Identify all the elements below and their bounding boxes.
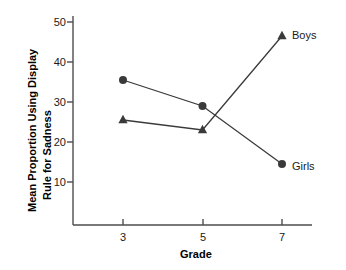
data-point-girls-grade-7: [278, 160, 286, 168]
plot-svg: [0, 0, 346, 270]
chart-container: Mean Proportion Using Display Rule for S…: [0, 0, 346, 270]
series-markers-boys: [118, 31, 286, 134]
data-point-girls-grade-3: [119, 76, 127, 84]
series-line-girls: [123, 80, 282, 164]
data-point-boys-grade-7: [277, 31, 286, 40]
data-point-girls-grade-5: [199, 102, 207, 110]
series-line-boys: [123, 36, 282, 130]
data-point-boys-grade-3: [118, 115, 127, 124]
